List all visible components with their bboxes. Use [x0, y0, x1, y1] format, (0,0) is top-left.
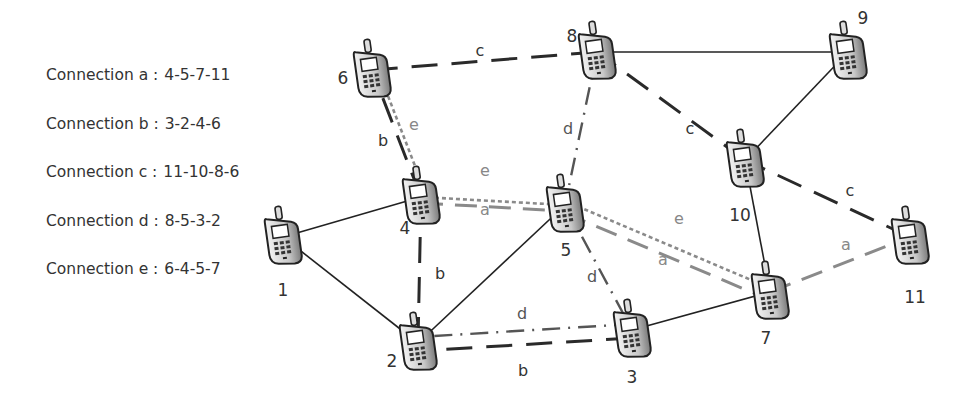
node-label: 11	[904, 287, 926, 307]
node-layer: 1234567891011	[263, 8, 930, 387]
edge-label-a: a	[658, 250, 668, 269]
mobile-phone-icon	[828, 19, 868, 82]
node-6: 6	[338, 37, 392, 100]
node-5: 5	[545, 172, 585, 260]
node-label: 4	[400, 218, 411, 238]
edge-label-e: e	[674, 209, 684, 228]
node-10: 10	[725, 127, 765, 225]
link-1-2	[283, 237, 418, 343]
edge-label-e: e	[409, 115, 419, 134]
node-label: 6	[338, 68, 349, 88]
link-10-9	[745, 52, 848, 160]
edge-label-e: e	[480, 161, 490, 180]
connection-d-3-2	[418, 324, 632, 337]
mobile-phone-icon	[577, 19, 617, 82]
edge-label-d: d	[563, 119, 573, 138]
node-3: 3	[612, 297, 652, 387]
node-11: 11	[890, 204, 930, 307]
node-label: 9	[858, 8, 869, 28]
edge-label-b: b	[518, 361, 528, 380]
node-4: 4	[400, 164, 441, 238]
mobile-phone-icon	[352, 37, 392, 100]
connection-c-11-10	[745, 160, 910, 237]
node-9: 9	[828, 8, 869, 82]
connection-c-10-8	[597, 52, 745, 160]
node-label: 10	[729, 205, 751, 225]
connection-b-3-2	[418, 338, 632, 351]
mobile-phone-icon	[725, 127, 765, 190]
edge-label-b: b	[435, 264, 445, 283]
mobile-phone-icon	[612, 297, 652, 360]
mobile-phone-icon	[545, 172, 585, 235]
edge-label-d: d	[517, 304, 527, 323]
node-label: 8	[567, 26, 578, 46]
node-label: 3	[627, 367, 638, 387]
node-label: 2	[387, 351, 398, 371]
node-7: 7	[750, 259, 790, 348]
mobile-phone-icon	[750, 259, 790, 322]
edge-label-b: b	[378, 131, 388, 150]
edge-label-d: d	[587, 267, 597, 286]
edge-label-c: c	[846, 181, 855, 200]
node-1: 1	[263, 204, 303, 300]
network-diagram: cccbbbdddeeeaaa 1234567891011	[0, 0, 966, 411]
node-8: 8	[567, 19, 617, 82]
node-label: 7	[761, 328, 772, 348]
edge-label-c: c	[686, 119, 695, 138]
node-label: 5	[561, 240, 572, 260]
node-label: 1	[278, 280, 289, 300]
mobile-phone-icon	[890, 204, 930, 267]
link-3-7	[632, 292, 770, 330]
edge-label-a: a	[480, 200, 490, 219]
connection-a-7-11	[770, 237, 910, 292]
connection-c-8-6	[372, 52, 597, 70]
mobile-phone-icon	[263, 204, 303, 267]
edge-label-c: c	[476, 41, 485, 60]
edge-label-a: a	[841, 235, 851, 254]
node-2: 2	[387, 310, 438, 373]
